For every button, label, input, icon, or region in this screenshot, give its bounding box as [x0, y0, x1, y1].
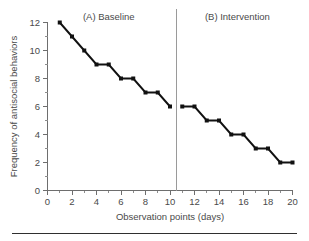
x-tick-label: 6 [118, 196, 123, 207]
y-tick-label: 0 [35, 185, 40, 196]
data-point-marker [107, 63, 111, 67]
x-axis-title: Observation points (days) [116, 211, 224, 222]
y-axis-title: Frequency of antisocial behaviors [8, 35, 19, 177]
data-point-marker [217, 119, 221, 123]
x-tick-label: 4 [94, 196, 99, 207]
data-point-marker [291, 161, 295, 165]
x-tick-label: 10 [165, 196, 176, 207]
x-tick-label: 16 [238, 196, 249, 207]
data-point-marker [144, 91, 148, 95]
data-point-marker [254, 147, 258, 151]
y-tick-label: 4 [35, 129, 40, 140]
x-tick-label: 2 [69, 196, 74, 207]
x-tick-label: 18 [263, 196, 274, 207]
x-tick-label: 12 [189, 196, 200, 207]
data-point-marker [205, 119, 209, 123]
y-tick-label: 8 [35, 73, 40, 84]
phase-label-intervention: (B) Intervention [205, 11, 270, 22]
data-point-marker [278, 161, 282, 165]
data-point-marker [168, 105, 172, 109]
data-point-marker [131, 77, 135, 81]
y-tick-label: 2 [35, 157, 40, 168]
data-point-marker [180, 105, 184, 109]
data-point-marker [242, 133, 246, 137]
phase-label-baseline: (A) Baseline [83, 11, 135, 22]
x-tick-label: 0 [45, 196, 50, 207]
data-point-marker [229, 133, 233, 137]
y-tick-label: 6 [35, 101, 40, 112]
data-point-marker [70, 35, 74, 39]
data-point-marker [82, 49, 86, 53]
data-point-marker [156, 91, 160, 95]
y-tick-label: 12 [29, 17, 40, 28]
data-point-marker [193, 105, 197, 109]
data-point-marker [119, 77, 123, 81]
x-tick-label: 8 [143, 196, 148, 207]
data-point-marker [266, 147, 270, 151]
x-tick-label: 14 [214, 196, 225, 207]
data-point-marker [95, 63, 99, 67]
ab-design-line-chart: 02468101202468101214161820 (A) Baseline(… [0, 0, 309, 241]
data-point-marker [58, 21, 62, 25]
x-tick-label: 20 [287, 196, 298, 207]
figure-container: 02468101202468101214161820 (A) Baseline(… [0, 0, 309, 241]
y-tick-label: 10 [29, 45, 40, 56]
